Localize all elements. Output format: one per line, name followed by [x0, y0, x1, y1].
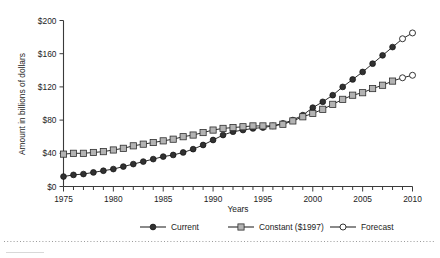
- series-line: [64, 75, 413, 154]
- x-tick-label: 1985: [154, 194, 173, 204]
- data-point-marker: [250, 123, 256, 129]
- x-tick-label: 1980: [104, 194, 123, 204]
- data-point-marker: [91, 169, 97, 175]
- data-point-marker: [170, 152, 176, 158]
- data-point-marker: [340, 84, 346, 90]
- data-point-marker: [330, 92, 336, 98]
- data-point-marker: [81, 171, 87, 177]
- data-point-marker: [230, 124, 236, 130]
- series-current: [61, 30, 416, 179]
- x-axis-title-text: Years: [227, 204, 248, 214]
- data-point-marker: [380, 52, 386, 58]
- forecast-point-marker: [410, 72, 416, 78]
- legend-marker: [238, 224, 244, 230]
- legend-label: Current: [171, 222, 200, 232]
- data-point-marker: [70, 150, 76, 156]
- x-tick-label: 1990: [204, 194, 223, 204]
- y-tick-label: $80: [43, 115, 57, 125]
- data-point-marker: [340, 96, 346, 102]
- data-point-marker: [370, 85, 376, 91]
- x-tick-label: 2000: [303, 194, 322, 204]
- line-chart: Amount in billions of dollars $0$40$80$1…: [0, 0, 440, 258]
- y-tick-label: $40: [43, 148, 57, 158]
- legend-label: Forecast: [361, 222, 394, 232]
- data-point-marker: [180, 150, 186, 156]
- legend-item-3: Forecast: [330, 222, 394, 232]
- legend-marker: [150, 224, 156, 230]
- data-point-marker: [90, 149, 96, 155]
- data-point-marker: [71, 172, 77, 178]
- data-point-marker: [280, 121, 286, 127]
- y-axis-title-text: Amount in billions of dollars: [17, 53, 27, 155]
- data-point-marker: [320, 106, 326, 112]
- data-point-marker: [110, 147, 116, 153]
- chart-figure: Amount in billions of dollars $0$40$80$1…: [0, 0, 440, 258]
- y-tick-label: $0: [47, 182, 57, 192]
- data-point-marker: [190, 146, 196, 152]
- forecast-point-marker: [410, 30, 416, 36]
- y-tick-label: $160: [38, 49, 57, 59]
- series-line: [64, 33, 413, 177]
- data-point-marker: [180, 134, 186, 140]
- data-point-marker: [210, 127, 216, 133]
- x-tick-label: 1975: [54, 194, 73, 204]
- data-point-marker: [240, 124, 246, 130]
- data-point-marker: [360, 90, 366, 96]
- x-tick-label: 1995: [254, 194, 273, 204]
- data-point-marker: [320, 99, 326, 105]
- data-point-marker: [220, 125, 226, 131]
- forecast-point-marker: [400, 36, 406, 42]
- data-point-marker: [310, 110, 316, 116]
- data-point-marker: [220, 132, 226, 138]
- data-point-marker: [310, 105, 316, 111]
- data-point-marker: [140, 141, 146, 147]
- legend-item-2: Constant ($1997): [228, 222, 324, 232]
- data-point-marker: [389, 78, 395, 84]
- y-tick-label: $120: [38, 82, 57, 92]
- data-point-marker: [150, 156, 156, 162]
- data-point-marker: [350, 92, 356, 98]
- data-series-layer: [60, 30, 415, 179]
- legend-marker: [340, 224, 346, 230]
- data-point-marker: [270, 123, 276, 129]
- data-point-marker: [370, 61, 376, 67]
- data-point-marker: [160, 138, 166, 144]
- x-tick-label: 2005: [353, 194, 372, 204]
- data-point-marker: [170, 136, 176, 142]
- data-point-marker: [200, 142, 206, 148]
- legend-item-1: Current: [140, 222, 200, 232]
- y-axis-title: Amount in billions of dollars: [17, 53, 27, 155]
- y-tick-label: $200: [38, 16, 57, 26]
- data-point-marker: [330, 101, 336, 107]
- data-point-marker: [61, 174, 67, 180]
- x-tick-label: 2010: [403, 194, 422, 204]
- data-point-marker: [200, 129, 206, 135]
- data-point-marker: [260, 123, 266, 129]
- series-constant: [60, 72, 415, 157]
- data-point-marker: [120, 145, 126, 151]
- data-point-marker: [100, 168, 106, 174]
- x-axis-ticks: 19751980198519901995200020052010: [54, 187, 422, 204]
- data-point-marker: [350, 77, 356, 83]
- data-point-marker: [80, 150, 86, 156]
- data-point-marker: [140, 159, 146, 165]
- data-point-marker: [150, 139, 156, 145]
- legend-label: Constant ($1997): [259, 222, 324, 232]
- data-point-marker: [190, 132, 196, 138]
- data-point-marker: [290, 118, 296, 124]
- data-point-marker: [210, 137, 216, 143]
- data-point-marker: [110, 166, 116, 172]
- data-point-marker: [379, 82, 385, 88]
- data-point-marker: [360, 69, 366, 75]
- data-point-marker: [120, 164, 126, 170]
- y-axis-ticks: $0$40$80$120$160$200: [38, 16, 64, 192]
- data-point-marker: [300, 114, 306, 120]
- data-point-marker: [60, 151, 66, 157]
- data-point-marker: [160, 154, 166, 160]
- data-point-marker: [100, 149, 106, 155]
- data-point-marker: [130, 161, 136, 167]
- data-point-marker: [390, 44, 396, 50]
- data-point-marker: [130, 143, 136, 149]
- forecast-point-marker: [400, 75, 406, 81]
- chart-legend: CurrentConstant ($1997)Forecast: [140, 222, 394, 232]
